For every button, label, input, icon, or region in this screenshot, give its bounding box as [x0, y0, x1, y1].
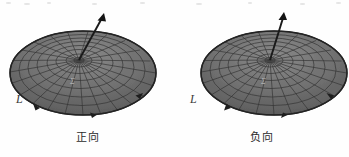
figure-root: Σ L 正向 [0, 0, 349, 157]
boundary-curve-label-right: L [190, 92, 197, 107]
caption-negative-orientation: 负向 [174, 128, 349, 144]
surface-label-sigma-right: Σ [260, 77, 266, 86]
panel-positive-orientation: Σ L 正向 [0, 0, 175, 157]
caption-positive-orientation: 正向 [0, 128, 175, 144]
oriented-surface-negative: Σ [174, 0, 349, 132]
panel-negative-orientation: Σ L 负向 [174, 0, 349, 157]
surface-label-sigma-left: Σ [69, 77, 75, 86]
oriented-surface-positive: Σ [0, 0, 175, 132]
boundary-curve-label-left: L [16, 92, 23, 107]
